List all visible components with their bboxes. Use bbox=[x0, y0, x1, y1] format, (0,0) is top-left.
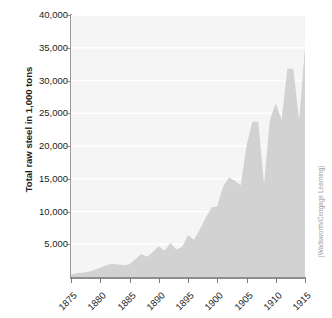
x-axis-tick-labels: 187518801885189018951900190519101915 bbox=[0, 0, 332, 318]
y-axis-tick-mark bbox=[66, 48, 71, 49]
x-axis-tick-mark bbox=[100, 278, 101, 283]
x-axis-tick-mark bbox=[247, 278, 248, 283]
x-axis-tick-mark bbox=[159, 278, 160, 283]
y-axis-tick-mark bbox=[66, 146, 71, 147]
x-axis-tick-mark bbox=[71, 278, 72, 283]
x-axis-tick-mark bbox=[130, 278, 131, 283]
y-axis-tick-mark bbox=[66, 244, 71, 245]
x-axis-tick-label: 1875 bbox=[26, 290, 79, 318]
x-axis-tick-mark bbox=[217, 278, 218, 283]
y-axis-tick-mark bbox=[66, 81, 71, 82]
x-axis-tick-mark bbox=[305, 278, 306, 283]
y-axis-tick-mark bbox=[66, 15, 71, 16]
y-axis-tick-mark bbox=[66, 212, 71, 213]
chart-figure: Total raw steel in 1,000 tons 5,00010,00… bbox=[0, 0, 332, 318]
y-axis-tick-mark bbox=[66, 179, 71, 180]
x-axis-tick-mark bbox=[188, 278, 189, 283]
source-credit: (Wadsworth/Cengage Learning) bbox=[317, 152, 324, 272]
x-axis-tick-mark bbox=[276, 278, 277, 283]
y-axis-tick-mark bbox=[66, 113, 71, 114]
